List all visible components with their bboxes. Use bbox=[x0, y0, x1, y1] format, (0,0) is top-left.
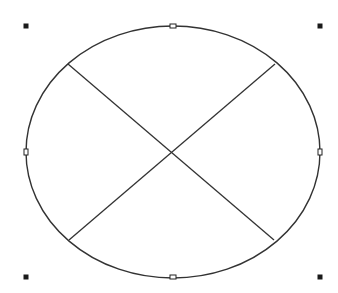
resize-handle-top-middle[interactable] bbox=[170, 24, 176, 28]
resize-handle-bottom-right[interactable] bbox=[318, 275, 323, 280]
resize-handle-bottom-left[interactable] bbox=[24, 275, 29, 280]
resize-handle-middle-left[interactable] bbox=[24, 149, 28, 155]
selected-shape-group[interactable] bbox=[26, 26, 320, 278]
drawing-canvas bbox=[0, 0, 338, 293]
resize-handle-middle-right[interactable] bbox=[318, 149, 322, 155]
resize-handle-bottom-middle[interactable] bbox=[170, 275, 176, 279]
ellipse-with-cross-diagram bbox=[0, 0, 338, 293]
resize-handle-top-left[interactable] bbox=[24, 24, 29, 29]
resize-handle-top-right[interactable] bbox=[318, 24, 323, 29]
